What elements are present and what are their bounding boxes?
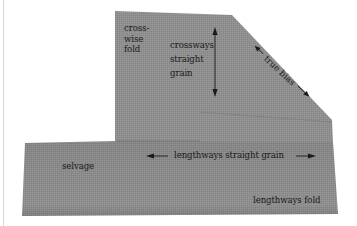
lengthways-straight-grain-label: lengthways straight grain	[174, 150, 284, 161]
crosswise-fold-line-1: cross-	[124, 23, 149, 34]
crosswise-fold-label: cross- wise fold	[124, 23, 149, 55]
crosswise-fold-line-3: fold	[124, 44, 149, 55]
crossways-grain-line-3: grain	[170, 66, 214, 80]
crossways-grain-line-1: crossways	[170, 38, 214, 52]
crossways-straight-grain-label: crossways straight grain	[170, 38, 214, 80]
crosswise-fold-line-2: wise	[124, 34, 149, 45]
crossways-grain-line-2: straight	[170, 52, 214, 66]
folded-fabric-illustration	[0, 0, 357, 226]
lengthways-fold-label: lengthways fold	[253, 195, 320, 206]
selvage-label: selvage	[62, 161, 94, 172]
